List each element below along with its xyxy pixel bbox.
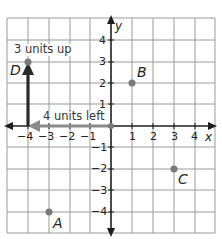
x-tick-label: −3 bbox=[38, 131, 54, 142]
up-note-label: 3 units up bbox=[13, 44, 73, 56]
y-tick-label: −4 bbox=[91, 206, 107, 217]
left-note-label: 4 units left bbox=[42, 111, 106, 123]
y-tick-label: 3 bbox=[99, 56, 106, 67]
point-d-label: D bbox=[10, 63, 21, 77]
x-tick-label: 3 bbox=[171, 131, 178, 142]
point-c-dot bbox=[171, 166, 178, 173]
y-tick-label: −3 bbox=[91, 185, 107, 196]
point-c-label: C bbox=[178, 172, 188, 186]
y-tick-label: −2 bbox=[91, 163, 107, 174]
x-tick-label: 2 bbox=[150, 131, 157, 142]
y-tick-label: 1 bbox=[99, 99, 106, 110]
point-a-label: A bbox=[53, 216, 63, 230]
origin-dot bbox=[108, 123, 114, 129]
point-b-label: B bbox=[137, 65, 147, 79]
y-axis-label: y bbox=[115, 20, 122, 32]
x-tick-label: −4 bbox=[17, 131, 33, 142]
x-tick-label: 1 bbox=[129, 131, 136, 142]
x-tick-label: 4 bbox=[191, 131, 198, 142]
point-a-dot bbox=[46, 209, 53, 216]
x-axis-label: x bbox=[205, 131, 212, 143]
up-translation-arrow bbox=[22, 62, 34, 126]
point-b-dot bbox=[129, 80, 136, 87]
y-tick-label: −1 bbox=[91, 142, 107, 153]
point-d-dot bbox=[25, 59, 32, 66]
x-tick-label: −2 bbox=[59, 131, 75, 142]
y-tick-label: 4 bbox=[99, 35, 106, 46]
y-tick-label: 2 bbox=[99, 78, 106, 89]
coordinate-plane bbox=[0, 0, 222, 239]
